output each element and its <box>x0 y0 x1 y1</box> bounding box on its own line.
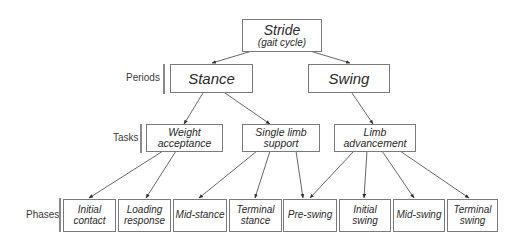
bracket-tasks <box>140 124 142 153</box>
phase-line1: Terminal <box>454 205 492 216</box>
phase-line1: Mid-swing <box>396 210 441 221</box>
node-mid-swing: Mid-swing <box>393 199 445 232</box>
phase-line1: Loading <box>127 205 163 216</box>
node-terminal-stance: Terminal stance <box>229 199 282 232</box>
phase-line1: Initial <box>353 205 376 216</box>
phase-line2: swing <box>460 216 486 227</box>
phase-line1: Pre-swing <box>288 210 332 221</box>
node-terminal-swing: Terminal swing <box>447 199 498 232</box>
phase-line2: response <box>124 216 165 227</box>
node-stride-title: Stride <box>264 23 301 38</box>
row-label-tasks: Tasks <box>113 132 139 143</box>
bracket-phases <box>59 198 61 232</box>
node-weight-acceptance-line2: acceptance <box>158 138 212 149</box>
node-weight-acceptance: Weight acceptance <box>146 124 223 152</box>
node-loading-response: Loading response <box>118 199 171 232</box>
phase-line2: swing <box>352 216 378 227</box>
node-pre-swing: Pre-swing <box>283 199 337 232</box>
node-initial-contact: Initial contact <box>63 199 116 232</box>
node-single-limb-support: Single limb support <box>242 124 320 152</box>
node-initial-swing: Initial swing <box>339 199 391 232</box>
node-stride: Stride (gait cycle) <box>242 19 322 52</box>
row-label-periods: Periods <box>126 72 160 83</box>
phase-line1: Terminal <box>237 205 275 216</box>
phase-line2: stance <box>241 216 270 227</box>
node-swing: Swing <box>308 64 390 93</box>
node-stance-label: Stance <box>188 71 235 87</box>
node-stride-subtitle: (gait cycle) <box>258 38 306 49</box>
node-stance: Stance <box>170 64 253 93</box>
phase-line1: Initial <box>78 205 101 216</box>
node-limb-advancement-line2: advancement <box>343 138 406 149</box>
node-swing-label: Swing <box>329 71 370 87</box>
phase-line1: Mid-stance <box>176 210 225 221</box>
node-single-limb-support-line2: support <box>263 138 298 149</box>
phase-line2: contact <box>73 216 105 227</box>
row-label-phases: Phases <box>26 209 59 220</box>
node-mid-stance: Mid-stance <box>173 199 227 232</box>
bracket-periods <box>163 64 165 94</box>
node-limb-advancement: Limb advancement <box>334 124 416 152</box>
